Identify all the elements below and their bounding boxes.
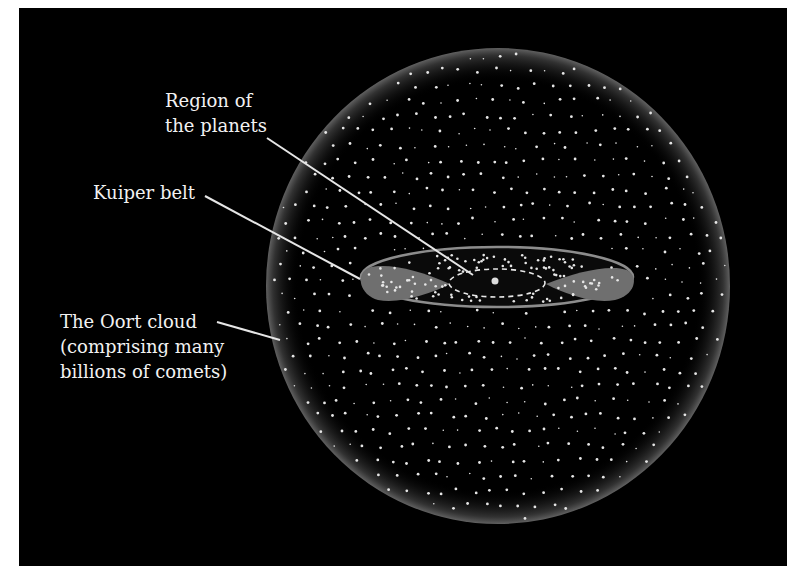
label-line: Region of: [165, 90, 252, 111]
label-line: (comprising many: [60, 336, 224, 357]
label-kuiper-belt: Kuiper belt: [93, 180, 195, 205]
label-line: the planets: [165, 115, 267, 136]
label-region-of-planets: Region ofthe planets: [165, 88, 267, 138]
label-oort-cloud: The Oort cloud(comprising manybillions o…: [60, 309, 227, 384]
kuiper-belt-disk: [361, 247, 634, 307]
label-line: billions of comets): [60, 361, 227, 382]
sun: [492, 278, 499, 285]
label-line: The Oort cloud: [60, 311, 197, 332]
label-line: Kuiper belt: [93, 182, 195, 203]
oort-cloud-diagram: [0, 0, 798, 580]
